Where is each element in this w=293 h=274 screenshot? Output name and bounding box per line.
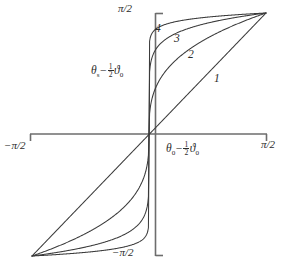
- y-axis-title-half: 12: [108, 63, 114, 79]
- curve-label-4: 4: [155, 23, 161, 35]
- x-axis-title-minus: −: [175, 142, 183, 154]
- plot-canvas: [0, 0, 293, 274]
- curve-label-3: 3: [174, 33, 180, 45]
- x-axis-title-half-denominator: 2: [183, 148, 189, 157]
- y-axis-title-half-denominator: 2: [108, 70, 114, 79]
- x-axis-title-vartheta-sub: 0: [195, 149, 199, 157]
- y-axis-title: θs−12ϑ0: [91, 63, 123, 79]
- curve-label-1: 1: [214, 73, 220, 85]
- y-axis-title-half-numerator: 1: [108, 63, 114, 71]
- y-axis-title-minus: −: [99, 64, 107, 76]
- x-axis-title: θ0−12ϑ0: [166, 141, 199, 157]
- x-axis-tick-label-right: π/2: [261, 139, 275, 150]
- x-axis-title-half: 12: [183, 141, 189, 157]
- y-axis-tick-label-top: π/2: [118, 3, 132, 14]
- y-axis-title-vartheta-sub: 0: [120, 71, 124, 79]
- x-axis-title-half-numerator: 1: [183, 141, 189, 149]
- curve-label-2: 2: [188, 49, 194, 61]
- x-axis-tick-label-left: −π/2: [4, 140, 26, 151]
- figure-container: π/2 −π/2 −π/2 π/2 θs−12ϑ0 θ0−12ϑ0 4 3 2 …: [0, 0, 293, 274]
- y-axis-tick-label-bottom: −π/2: [112, 247, 134, 258]
